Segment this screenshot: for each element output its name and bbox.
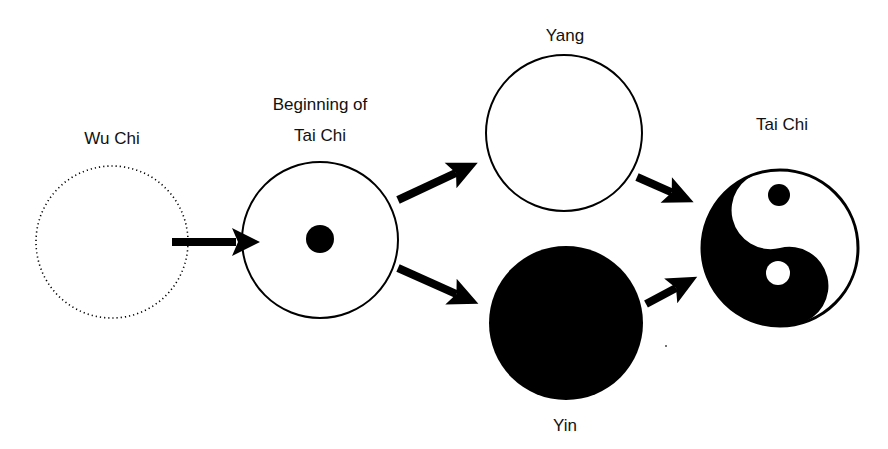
arrow-beginning-to-yang (392, 150, 484, 213)
tai-chi-label: Tai Chi (756, 115, 808, 134)
arrow-wuchi-to-beginning (172, 228, 260, 256)
arrow-yang-to-taichi (631, 164, 699, 215)
wu-chi-label: Wu Chi (84, 129, 139, 148)
yin-yang-light-dot (766, 261, 790, 285)
yin-circle (489, 246, 643, 400)
tai-chi-diagram: Wu Chi Beginning of Tai Chi Yang Yin Tai… (0, 0, 888, 449)
beginning-center-dot (306, 225, 334, 253)
yin-yang-dark-dot (768, 184, 790, 206)
wu-chi-circle (36, 166, 188, 318)
yin-yang-symbol (685, 163, 858, 343)
yin-label: Yin (553, 416, 577, 435)
beginning-label-line1: Beginning of (273, 95, 368, 114)
beginning-label-line2: Tai Chi (294, 126, 346, 145)
yang-label: Yang (546, 26, 584, 45)
arrow-yin-to-taichi (639, 264, 703, 316)
speck (665, 345, 667, 347)
yang-circle (486, 55, 642, 211)
arrow-beginning-to-yin (392, 255, 484, 316)
